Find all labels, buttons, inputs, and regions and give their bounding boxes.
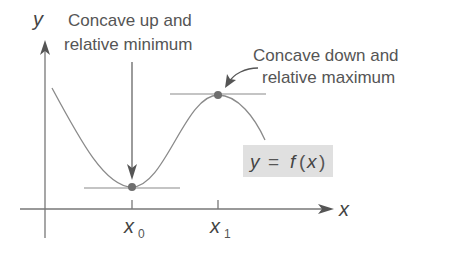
x-axis-label: x [338,198,350,220]
svg-text:x: x [209,215,221,237]
relative-maximum-point [214,91,222,99]
min-annotation-line1: Concave up and [68,11,192,30]
maximum-pointer-arrow [225,68,258,88]
svg-text:): ) [319,151,325,172]
y-axis: y [31,8,50,238]
function-curve [52,88,265,187]
relative-minimum-point [128,183,136,191]
function-label: y = f ( x ) [243,145,333,177]
svg-text:x: x [306,151,318,172]
svg-text:y: y [248,151,261,172]
tick-x1: x 1 [209,200,231,241]
max-annotation-line2: relative maximum [262,68,395,87]
x-axis: x [20,198,350,220]
svg-text:(: ( [299,151,306,172]
concavity-extrema-diagram: y x x 0 x 1 Concave up and relative mini… [0,0,457,255]
svg-text:1: 1 [224,227,231,241]
max-annotation-line1: Concave down and [253,46,399,65]
svg-text:x: x [123,215,135,237]
svg-text:0: 0 [138,227,145,241]
y-axis-label: y [31,8,44,30]
minimum-pointer-arrow [127,62,137,180]
svg-text:=: = [268,151,279,172]
tick-x0: x 0 [123,200,145,241]
min-annotation-line2: relative minimum [64,35,192,54]
